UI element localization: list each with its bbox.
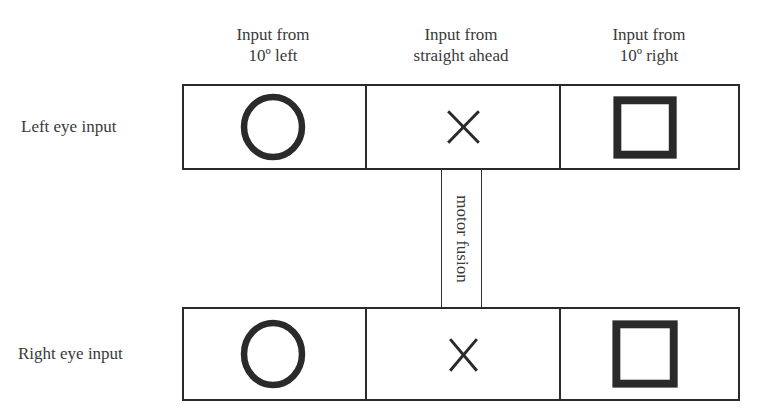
square-icon bbox=[561, 86, 738, 168]
row-label-right-eye: Right eye input bbox=[18, 344, 123, 364]
column-header-center-line2: straight ahead bbox=[364, 45, 558, 66]
right-eye-cell-right bbox=[559, 309, 738, 399]
column-header-center: Input from straight ahead bbox=[364, 24, 558, 66]
motor-fusion-label: motor fusion bbox=[452, 195, 472, 282]
square-icon bbox=[561, 309, 738, 399]
column-header-right: Input from 10º right bbox=[558, 24, 740, 66]
left-eye-cell-right bbox=[559, 86, 738, 168]
circle-icon bbox=[184, 309, 365, 399]
motor-fusion-connector: motor fusion bbox=[441, 168, 482, 309]
left-eye-cell-left bbox=[184, 86, 365, 168]
cross-icon bbox=[367, 309, 559, 399]
column-header-left: Input from 10º left bbox=[182, 24, 364, 66]
row-label-left-eye: Left eye input bbox=[21, 117, 116, 137]
column-header-left-line1: Input from bbox=[182, 24, 364, 45]
left-eye-cell-center bbox=[365, 86, 559, 168]
right-eye-cell-left bbox=[184, 309, 365, 399]
left-eye-box bbox=[182, 84, 740, 170]
column-header-right-line1: Input from bbox=[558, 24, 740, 45]
column-header-right-line2: 10º right bbox=[558, 45, 740, 66]
right-eye-cell-center bbox=[365, 309, 559, 399]
circle-icon bbox=[184, 86, 365, 168]
column-header-left-line2: 10º left bbox=[182, 45, 364, 66]
column-header-center-line1: Input from bbox=[364, 24, 558, 45]
right-eye-box bbox=[182, 307, 740, 401]
cross-icon bbox=[367, 86, 559, 168]
